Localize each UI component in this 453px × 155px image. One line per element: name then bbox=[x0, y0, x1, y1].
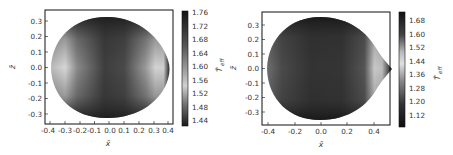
x-tick: 0.4 bbox=[162, 126, 174, 135]
cbar-tick: 1.60 bbox=[192, 62, 208, 71]
y-tick: -0.3 bbox=[28, 110, 42, 119]
x-tick: -0.2 bbox=[73, 126, 87, 135]
cbar-label: T̃ eff bbox=[433, 66, 443, 80]
x-tick: 0.0 bbox=[315, 127, 327, 136]
x-tick: 0.1 bbox=[118, 126, 129, 135]
y-tick: -0.1 bbox=[245, 79, 259, 88]
y-axis-label: z̃ bbox=[8, 64, 17, 70]
svg-text:eff: eff bbox=[437, 66, 443, 74]
svg-text:eff: eff bbox=[219, 58, 225, 66]
x-tick: -0.1 bbox=[87, 126, 101, 135]
y-tick: 0.0 bbox=[248, 64, 260, 73]
y-tick: -0.2 bbox=[245, 93, 259, 102]
cbar-tick: 1.12 bbox=[409, 111, 425, 120]
left-heatmap bbox=[51, 17, 170, 118]
y-tick: -0.2 bbox=[28, 94, 42, 103]
right-y-axis: 0.3 0.2 0.1 0.0 -0.1 -0.2 -0.3 z̃ bbox=[229, 21, 265, 117]
figure: 0.3 0.2 0.1 0.0 -0.1 -0.2 -0.3 z̃ -0.4 -… bbox=[0, 0, 453, 155]
cbar-tick: 1.20 bbox=[409, 97, 425, 106]
x-tick: -0.4 bbox=[261, 127, 275, 136]
cbar-tick: 1.56 bbox=[192, 76, 208, 85]
x-tick: 0.3 bbox=[148, 126, 159, 135]
y-tick: 0.0 bbox=[31, 63, 43, 72]
cbar-tick: 1.72 bbox=[192, 22, 208, 31]
cbar-label: T̃ eff bbox=[215, 58, 225, 72]
left-x-axis: -0.4 -0.3 -0.2 -0.1 0.0 0.1 0.2 0.3 0.4 … bbox=[41, 121, 174, 148]
cbar-tick: 1.28 bbox=[409, 84, 425, 93]
x-tick: 0.2 bbox=[133, 126, 144, 135]
cbar-tick: 1.44 bbox=[409, 57, 425, 66]
y-tick: 0.2 bbox=[31, 32, 42, 41]
cbar-tick: 1.52 bbox=[192, 89, 208, 98]
x-tick: -0.3 bbox=[58, 126, 72, 135]
y-tick: 0.3 bbox=[31, 17, 42, 26]
y-tick: 0.2 bbox=[248, 35, 259, 44]
cbar-tick: 1.68 bbox=[409, 16, 425, 25]
y-axis-label: z̃ bbox=[229, 65, 238, 71]
y-tick: 0.1 bbox=[31, 48, 42, 57]
y-tick: -0.1 bbox=[28, 79, 42, 88]
cbar-tick: 1.60 bbox=[409, 30, 425, 39]
x-tick: -0.2 bbox=[288, 127, 302, 136]
x-tick: 0.2 bbox=[341, 127, 352, 136]
x-tick: 0.4 bbox=[368, 127, 380, 136]
right-x-axis: -0.4 -0.2 0.0 0.2 0.4 x̃ bbox=[261, 122, 380, 149]
x-tick: 0.0 bbox=[104, 126, 116, 135]
cbar-tick: 1.48 bbox=[192, 103, 208, 112]
left-colorbar: 1.76 1.72 1.68 1.64 1.60 1.56 1.52 1.48 … bbox=[182, 8, 225, 126]
x-axis-label: x̃ bbox=[105, 139, 111, 148]
left-y-axis: 0.3 0.2 0.1 0.0 -0.1 -0.2 -0.3 z̃ bbox=[8, 17, 48, 119]
right-colorbar: 1.68 1.60 1.52 1.44 1.36 1.28 1.20 1.12 … bbox=[399, 12, 443, 127]
cbar-tick: 1.76 bbox=[192, 8, 208, 17]
cbar-tick: 1.68 bbox=[192, 35, 208, 44]
right-panel: 0.3 0.2 0.1 0.0 -0.1 -0.2 -0.3 z̃ -0.4 -… bbox=[229, 12, 443, 149]
cbar-tick: 1.36 bbox=[409, 70, 425, 79]
right-heatmap bbox=[267, 17, 392, 120]
left-panel: 0.3 0.2 0.1 0.0 -0.1 -0.2 -0.3 z̃ -0.4 -… bbox=[8, 8, 225, 148]
cbar-tick: 1.52 bbox=[409, 43, 425, 52]
y-tick: 0.3 bbox=[248, 21, 259, 30]
x-tick: -0.4 bbox=[41, 126, 55, 135]
cbar-tick: 1.44 bbox=[192, 116, 208, 125]
x-axis-label: x̃ bbox=[318, 140, 324, 149]
cbar-tick: 1.64 bbox=[192, 49, 208, 58]
y-tick: -0.3 bbox=[245, 108, 259, 117]
y-tick: 0.1 bbox=[248, 50, 259, 59]
